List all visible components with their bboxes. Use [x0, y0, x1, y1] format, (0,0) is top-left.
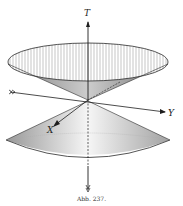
y-axis-label: Y — [168, 108, 175, 118]
double-cone-diagram: T Y X — [0, 0, 183, 206]
y-axis-tail-icon — [9, 90, 15, 94]
figure-caption: Abb. 237. — [0, 195, 183, 202]
y-axis-arrow-icon — [160, 109, 166, 114]
t-axis-arrow-icon — [86, 21, 90, 27]
x-axis-label: X — [46, 125, 54, 135]
t-axis-label: T — [84, 8, 91, 18]
